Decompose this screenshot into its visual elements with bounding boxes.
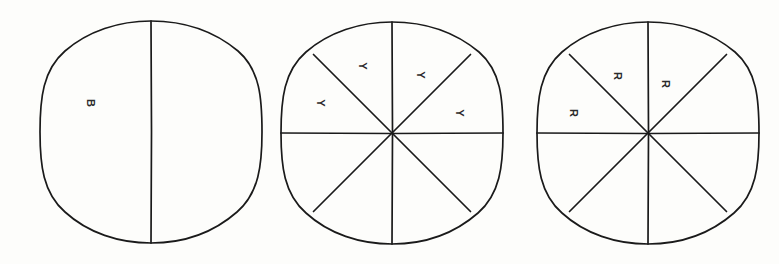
circle-3-label-2: R bbox=[660, 80, 671, 88]
circle-1-group bbox=[40, 21, 262, 243]
fraction-circles-canvas bbox=[0, 0, 779, 264]
circle-3-group bbox=[537, 22, 759, 244]
circle-3-label-1: R bbox=[612, 72, 623, 80]
circle-1-divider-vertical bbox=[151, 21, 152, 243]
circle-2-label-3: Y bbox=[454, 109, 465, 116]
circle-1-label-0: B bbox=[85, 99, 96, 107]
circle-2-label-0: Y bbox=[315, 99, 326, 106]
circle-2-group bbox=[281, 22, 503, 244]
fraction-circles-figure: B Y Y Y Y R R R bbox=[0, 0, 779, 264]
circle-2-label-1: Y bbox=[357, 62, 368, 69]
circle-3-label-0: R bbox=[568, 109, 579, 117]
circle-2-label-2: Y bbox=[415, 71, 426, 78]
